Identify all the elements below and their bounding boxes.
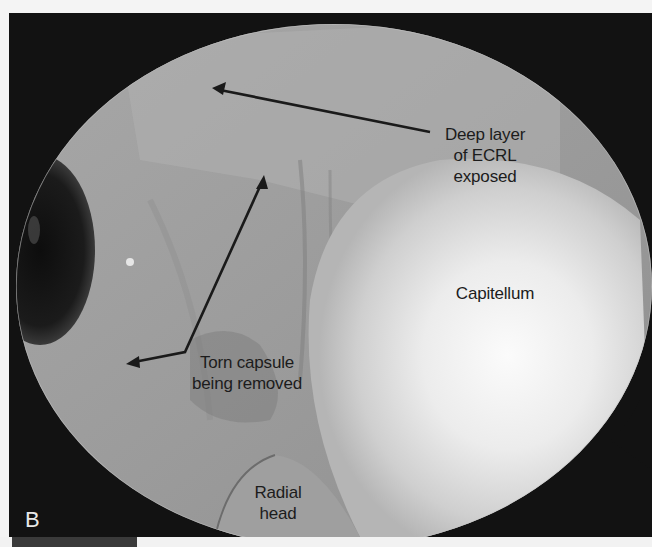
label-deep-layer-ecrl: Deep layer of ECRL exposed [424,124,546,187]
label-line: Deep layer [424,124,546,145]
label-line: Radial [238,482,318,503]
label-line: Torn capsule [172,352,322,373]
label-capitellum: Capitellum [440,283,550,304]
label-line: of ECRL [424,145,546,166]
arthroscopy-image [0,0,652,547]
label-radial-head: Radial head [238,482,318,524]
label-torn-capsule: Torn capsule being removed [172,352,322,394]
label-line: head [238,503,318,524]
label-line: being removed [172,373,322,394]
bottom-strip-tab [12,537,137,547]
label-line: exposed [424,166,546,187]
panel-letter: B [25,507,40,533]
arthroscopy-figure: Deep layer of ECRL exposed Capitellum To… [0,0,652,547]
